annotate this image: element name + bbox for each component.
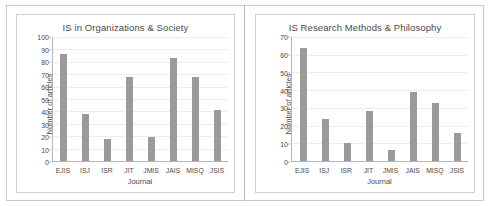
y-tick-mark xyxy=(288,72,290,73)
bar-slot xyxy=(314,37,336,161)
x-axis-labels-left: EJISISJISRJITJMISJAISMISQJSIS xyxy=(52,167,228,174)
plot-canvas-left xyxy=(52,37,228,162)
bar xyxy=(60,54,67,161)
y-tick-mark xyxy=(49,162,51,163)
x-tick-label: EJIS xyxy=(52,167,74,174)
chart-panels: IS in Organizations & Society Number of … xyxy=(6,5,484,201)
x-tick-label: MISQ xyxy=(184,167,206,174)
bar xyxy=(366,111,373,161)
x-tick-label: MISQ xyxy=(424,167,446,174)
bar xyxy=(300,48,307,161)
figure-container: IS in Organizations & Society Number of … xyxy=(0,0,490,206)
bar-slot xyxy=(446,37,468,161)
y-tick-label: 40 xyxy=(41,109,49,116)
y-tick-label: 10 xyxy=(41,146,49,153)
y-tick-label: 100 xyxy=(37,34,49,41)
x-axis-title-left: Journal xyxy=(52,177,228,186)
plot-area-left: 0102030405060708090100 EJISISJISRJITJMIS… xyxy=(31,37,228,162)
x-tick-label: JAIS xyxy=(162,167,184,174)
y-tick-label: 70 xyxy=(280,34,288,41)
bar-slot xyxy=(141,37,163,161)
chart-title-right: IS Research Methods & Philosophy xyxy=(256,22,474,33)
y-tick-mark xyxy=(288,54,290,55)
bar-slot xyxy=(292,37,314,161)
x-tick-label: JMIS xyxy=(380,167,402,174)
bar xyxy=(454,133,461,161)
bar-slot xyxy=(358,37,380,161)
y-tick-label: 20 xyxy=(41,134,49,141)
bar-series-left xyxy=(53,37,228,161)
bar xyxy=(388,150,395,161)
bar xyxy=(148,137,155,161)
chart-plot-frame-left: IS in Organizations & Society Number of … xyxy=(16,14,235,193)
y-tick-label: 30 xyxy=(280,105,288,112)
x-axis-title-right: Journal xyxy=(291,177,468,186)
bar-slot xyxy=(206,37,228,161)
y-tick-label: 70 xyxy=(41,71,49,78)
y-tick-mark xyxy=(49,49,51,50)
y-tick-mark xyxy=(49,149,51,150)
x-axis-labels-right: EJISISJISRJITJMISJAISMISQJSIS xyxy=(291,167,468,174)
bar xyxy=(104,139,111,161)
y-tick-label: 50 xyxy=(280,69,288,76)
y-tick-mark xyxy=(288,162,290,163)
x-tick-label: JSIS xyxy=(206,167,228,174)
y-tick-label: 20 xyxy=(280,123,288,130)
bar xyxy=(82,114,89,161)
x-tick-label: ISR xyxy=(335,167,357,174)
chart-title-left: IS in Organizations & Society xyxy=(17,22,234,33)
bar-slot xyxy=(380,37,402,161)
y-tick-label: 60 xyxy=(41,84,49,91)
bar xyxy=(322,119,329,162)
y-tick-mark xyxy=(49,124,51,125)
y-axis-ticks-left: 0102030405060708090100 xyxy=(31,37,51,162)
y-tick-label: 10 xyxy=(280,141,288,148)
bar xyxy=(192,77,199,161)
bar xyxy=(126,77,133,161)
x-tick-label: ISJ xyxy=(74,167,96,174)
x-tick-label: ISJ xyxy=(313,167,335,174)
y-tick-label: 90 xyxy=(41,46,49,53)
y-tick-mark xyxy=(49,137,51,138)
x-tick-label: ISR xyxy=(96,167,118,174)
y-tick-mark xyxy=(288,126,290,127)
y-tick-mark xyxy=(288,90,290,91)
bar-slot xyxy=(97,37,119,161)
y-tick-mark xyxy=(49,99,51,100)
bar-slot xyxy=(336,37,358,161)
x-tick-label: JAIS xyxy=(402,167,424,174)
y-tick-mark xyxy=(49,62,51,63)
bar-slot xyxy=(119,37,141,161)
y-tick-label: 80 xyxy=(41,59,49,66)
y-axis-ticks-right: 010203040506070 xyxy=(270,37,290,162)
bar-slot xyxy=(162,37,184,161)
plot-area-right: 010203040506070 EJISISJISRJITJMISJAISMIS… xyxy=(270,37,468,162)
y-tick-mark xyxy=(49,74,51,75)
plot-canvas-right xyxy=(291,37,468,162)
chart-panel-left: IS in Organizations & Society Number of … xyxy=(6,5,245,201)
y-tick-mark xyxy=(288,37,290,38)
y-tick-mark xyxy=(49,112,51,113)
y-tick-mark xyxy=(49,37,51,38)
x-tick-label: EJIS xyxy=(291,167,313,174)
x-tick-label: JSIS xyxy=(446,167,468,174)
x-tick-label: JIT xyxy=(118,167,140,174)
y-tick-mark xyxy=(288,144,290,145)
x-tick-label: JMIS xyxy=(140,167,162,174)
y-tick-mark xyxy=(49,87,51,88)
bar-slot xyxy=(53,37,75,161)
y-tick-mark xyxy=(288,108,290,109)
bar xyxy=(214,110,221,161)
y-tick-label: 30 xyxy=(41,121,49,128)
y-tick-label: 40 xyxy=(280,87,288,94)
bar xyxy=(410,92,417,161)
y-tick-label: 50 xyxy=(41,96,49,103)
y-tick-label: 60 xyxy=(280,51,288,58)
bar-series-right xyxy=(292,37,468,161)
chart-plot-frame-right: IS Research Methods & Philosophy Number … xyxy=(255,14,475,193)
bar xyxy=(170,58,177,161)
chart-panel-right: IS Research Methods & Philosophy Number … xyxy=(245,5,484,201)
bar-slot xyxy=(75,37,97,161)
bar-slot xyxy=(402,37,424,161)
x-tick-label: JIT xyxy=(357,167,379,174)
